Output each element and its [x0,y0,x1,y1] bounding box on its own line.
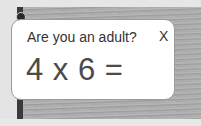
dialog-title: Are you an adult? [27,29,137,45]
math-question: 4 x 6 = [26,52,123,88]
age-gate-dialog: Are you an adult? X 4 x 6 = [11,19,175,100]
background-bottom [0,119,201,126]
close-button[interactable]: X [159,28,168,44]
